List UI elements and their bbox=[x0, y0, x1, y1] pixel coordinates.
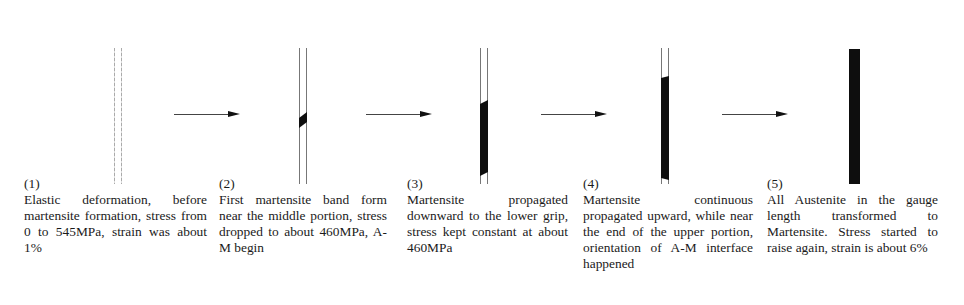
arrow-head-icon bbox=[595, 111, 607, 117]
stage-number: (2) bbox=[219, 176, 387, 192]
specimen-stage-4 bbox=[659, 48, 671, 184]
arrow-head-icon bbox=[776, 111, 788, 117]
caption-stage-3: (3) Martensite propagated downward to th… bbox=[407, 176, 568, 256]
specimen-outline-left bbox=[114, 48, 115, 184]
stage-number: (4) bbox=[583, 176, 753, 192]
caption-stage-5: (5) All Austenite in the gauge length tr… bbox=[767, 176, 938, 256]
specimen-stage-2 bbox=[297, 48, 309, 184]
specimen-stage-3 bbox=[478, 48, 490, 184]
specimen-stage-1 bbox=[112, 48, 124, 184]
stage-number: (5) bbox=[767, 176, 938, 192]
arrow-head-icon bbox=[420, 111, 432, 117]
caption-stage-4: (4) Martensite continuous propagated upw… bbox=[583, 176, 753, 272]
stage-description: Martensite continuous propagated upward,… bbox=[583, 192, 753, 272]
martensite-region bbox=[659, 76, 671, 182]
stage-description: Martensite propagated downward to the lo… bbox=[407, 192, 568, 256]
stage-description: Elastic deformation, before martensite f… bbox=[24, 192, 207, 256]
arrow-3-4 bbox=[541, 114, 607, 116]
martensite-band bbox=[297, 112, 309, 128]
arrow-4-5 bbox=[722, 114, 788, 116]
caption-stage-2: (2) First martensite band form near the … bbox=[219, 176, 387, 256]
specimen-stage-5 bbox=[849, 48, 860, 184]
arrow-2-3 bbox=[366, 114, 432, 116]
stage-number: (1) bbox=[24, 176, 207, 192]
arrow-head-icon bbox=[228, 111, 240, 117]
caption-stage-1: (1) Elastic deformation, before martensi… bbox=[24, 176, 207, 256]
martensite-region bbox=[478, 100, 490, 182]
stage-description: First martensite band form near the midd… bbox=[219, 192, 387, 256]
arrow-1-2 bbox=[174, 114, 240, 116]
stage-number: (3) bbox=[407, 176, 568, 192]
stage-description: All Austenite in the gauge length transf… bbox=[767, 192, 938, 256]
martensite-region bbox=[849, 49, 860, 184]
specimen-outline-right bbox=[121, 48, 122, 184]
